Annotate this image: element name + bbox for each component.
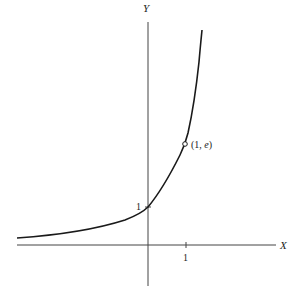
exponential-graph: Y X 1 1 (1, e) — [0, 0, 306, 302]
point-label: (1, e) — [191, 139, 212, 151]
point-1-e-marker — [183, 142, 188, 147]
y-axis-label: Y — [143, 2, 151, 14]
point-label-close: ) — [209, 139, 212, 151]
y-tick-label-1: 1 — [136, 201, 141, 212]
exp-curve — [17, 30, 202, 238]
x-axis-label: X — [279, 239, 288, 251]
point-label-open: (1, — [191, 139, 204, 151]
x-tick-label-1: 1 — [183, 252, 188, 263]
